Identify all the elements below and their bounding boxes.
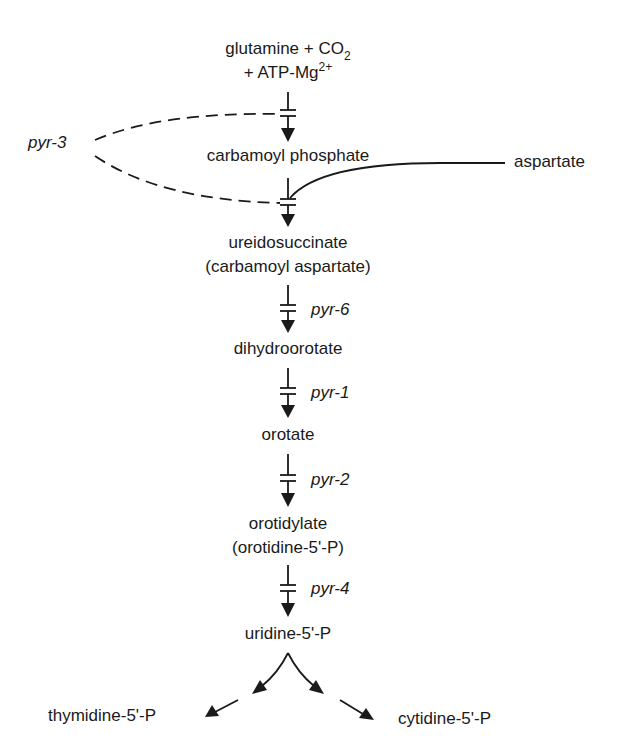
arrowhead-icon [281, 128, 295, 142]
pathway-diagram: glutamine + CO2 + ATP-Mg2+ pyr-3 carbamo… [0, 0, 623, 741]
arrowhead-icon [281, 493, 295, 507]
edge-to-carbamoyl-phosphate [280, 92, 296, 142]
node-uridine-5p: uridine-5'-P [245, 624, 331, 643]
arrowhead-icon [359, 708, 374, 720]
node-orotate: orotate [262, 425, 315, 444]
gene-label-pyr1: pyr-1 [310, 383, 349, 402]
gene-label-pyr6: pyr-6 [310, 300, 350, 319]
node-atp-mg: + ATP-Mg2+ [244, 60, 332, 82]
edge-to-ureidosuccinate [280, 178, 296, 227]
arrowhead-icon [281, 320, 295, 333]
node-cytidine-5p: cytidine-5'-P [398, 709, 491, 728]
edge-to-cytidine [288, 653, 374, 720]
arrowhead-icon [252, 680, 267, 694]
aspartate-input-line [290, 163, 505, 198]
node-carbamoyl-aspartate: (carbamoyl aspartate) [205, 257, 370, 276]
pyr3-dashed-link-upper [95, 114, 280, 140]
arrowhead-icon [281, 405, 295, 418]
arrowhead-icon [281, 214, 295, 227]
node-dihydroorotate: dihydroorotate [234, 339, 343, 358]
edge-to-orotate [280, 368, 296, 418]
node-aspartate: aspartate [514, 152, 585, 171]
gene-label-pyr4: pyr-4 [310, 579, 349, 598]
edge-to-dihydroorotate [280, 285, 296, 333]
edge-to-uridine [280, 565, 296, 617]
node-orotidine-5p: (orotidine-5'-P) [232, 538, 344, 557]
arrowhead-icon [281, 603, 295, 617]
edge-to-thymidine [205, 653, 288, 717]
gene-label-pyr2: pyr-2 [310, 470, 350, 489]
gene-label-pyr3: pyr-3 [27, 133, 67, 152]
edge-to-orotidylate [280, 454, 296, 507]
arrowhead-icon [309, 680, 324, 694]
node-carbamoyl-phosphate: carbamoyl phosphate [207, 146, 370, 165]
node-thymidine-5p: thymidine-5'-P [48, 706, 156, 725]
node-orotidylate: orotidylate [249, 514, 327, 533]
node-ureidosuccinate: ureidosuccinate [228, 233, 347, 252]
